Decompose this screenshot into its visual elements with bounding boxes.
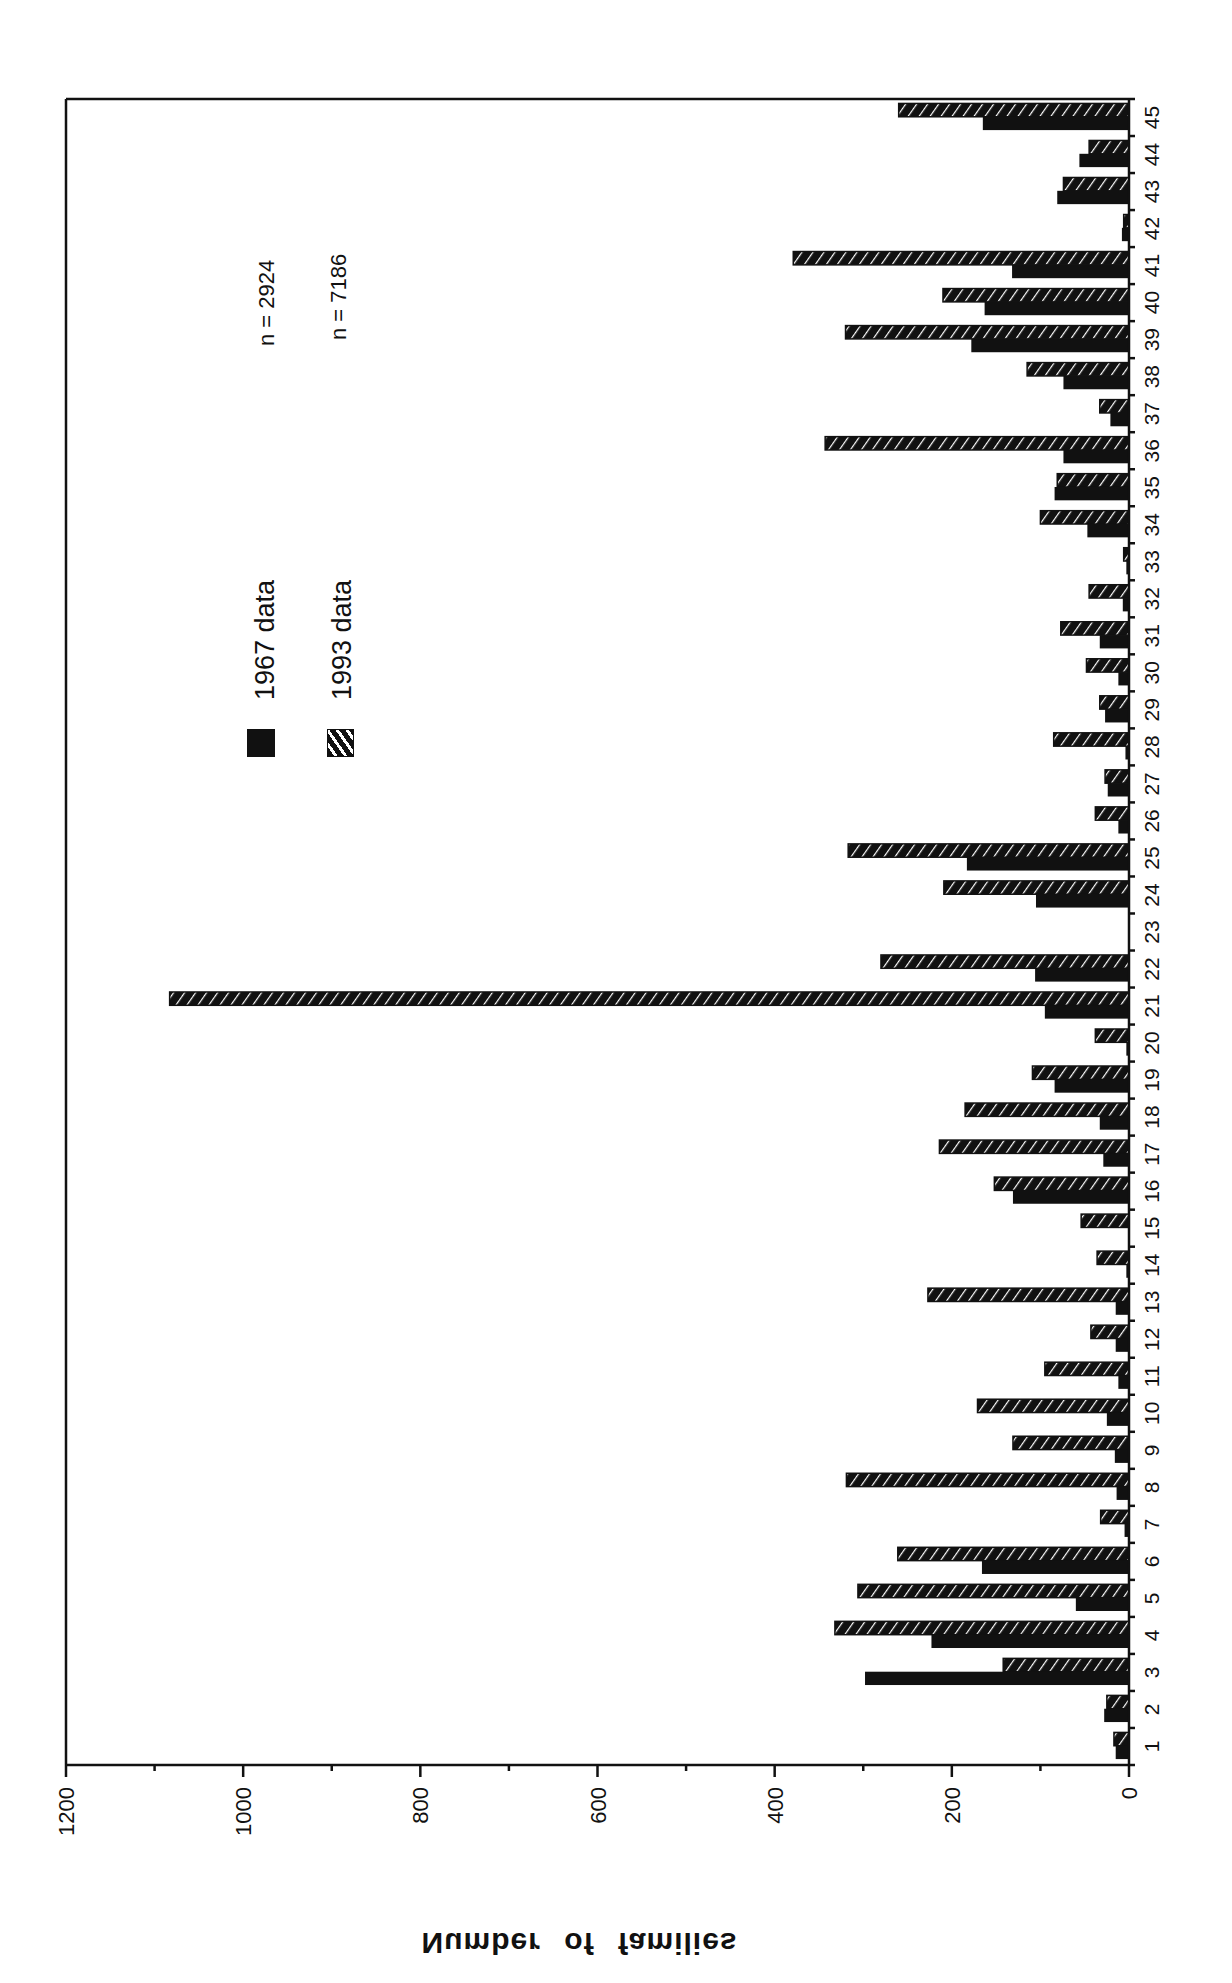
category-label-15: 15 <box>1140 1216 1163 1239</box>
bar-1993-cat-20 <box>1095 1029 1129 1042</box>
legend-swatch-1967-icon <box>247 729 275 757</box>
bar-1967-cat-41 <box>1012 265 1129 278</box>
category-label-33: 33 <box>1140 550 1163 573</box>
y-axis-title: Number of families <box>397 1926 762 1960</box>
bar-1993-cat-27 <box>1105 770 1129 783</box>
category-label-2: 2 <box>1140 1704 1163 1716</box>
bar-1967-cat-30 <box>1118 672 1129 685</box>
category-label-9: 9 <box>1140 1444 1163 1456</box>
value-tick-label-400: 400 <box>763 1787 788 1824</box>
category-label-41: 41 <box>1140 254 1163 277</box>
bar-1967-cat-17 <box>1103 1153 1129 1166</box>
bar-1993-cat-40 <box>943 289 1129 302</box>
category-label-35: 35 <box>1140 476 1163 499</box>
category-label-5: 5 <box>1140 1593 1163 1605</box>
bar-1993-cat-38 <box>1027 363 1129 376</box>
bar-1967-cat-10 <box>1107 1413 1129 1426</box>
bar-1967-cat-31 <box>1100 635 1129 648</box>
bar-1967-cat-8 <box>1117 1487 1129 1500</box>
bar-1967-cat-27 <box>1108 783 1129 796</box>
value-tick-label-0: 0 <box>1117 1787 1142 1799</box>
category-label-19: 19 <box>1140 1068 1163 1091</box>
bar-1993-cat-16 <box>994 1177 1129 1190</box>
bar-1993-cat-12 <box>1091 1325 1129 1338</box>
category-label-45: 45 <box>1140 106 1163 129</box>
bar-1993-cat-45 <box>899 103 1129 116</box>
bar-1993-cat-18 <box>965 1103 1129 1116</box>
category-label-21: 21 <box>1140 994 1163 1017</box>
bar-1967-cat-43 <box>1057 191 1129 204</box>
category-label-6: 6 <box>1140 1556 1163 1568</box>
bar-1967-cat-37 <box>1110 413 1129 426</box>
category-label-18: 18 <box>1140 1105 1163 1128</box>
bar-1967-cat-40 <box>985 302 1129 315</box>
category-label-28: 28 <box>1140 735 1163 758</box>
category-label-38: 38 <box>1140 365 1163 388</box>
bar-1993-cat-10 <box>978 1399 1129 1412</box>
bar-1993-cat-32 <box>1089 585 1129 598</box>
bar-1993-cat-25 <box>848 844 1129 857</box>
bar-1967-cat-44 <box>1079 154 1129 167</box>
category-label-11: 11 <box>1140 1365 1163 1387</box>
bar-1993-cat-8 <box>846 1473 1129 1486</box>
bar-1967-cat-22 <box>1035 968 1129 981</box>
bar-1967-cat-9 <box>1115 1450 1129 1463</box>
category-label-3: 3 <box>1140 1667 1163 1679</box>
category-label-20: 20 <box>1140 1031 1163 1054</box>
bar-1993-cat-35 <box>1057 474 1129 487</box>
bar-1993-cat-21 <box>170 992 1129 1005</box>
bar-1967-cat-34 <box>1087 524 1129 537</box>
bar-1967-cat-4 <box>931 1635 1129 1648</box>
value-tick-label-800: 800 <box>408 1787 433 1824</box>
bar-1993-cat-29 <box>1100 696 1129 709</box>
category-label-24: 24 <box>1140 883 1163 907</box>
n-label-1993: n = 7186 <box>326 254 352 340</box>
category-label-39: 39 <box>1140 328 1163 351</box>
value-tick-label-600: 600 <box>586 1787 611 1824</box>
n-label-1967: n = 2924 <box>254 260 280 346</box>
category-label-34: 34 <box>1140 513 1163 537</box>
value-tick-label-1000: 1000 <box>231 1787 256 1836</box>
bar-1967-cat-25 <box>967 857 1129 870</box>
category-label-8: 8 <box>1140 1481 1163 1493</box>
category-axis: 1234567891011121314151617181920212223242… <box>1129 99 1163 1765</box>
bar-1993-cat-19 <box>1032 1066 1129 1079</box>
bar-1993-cat-13 <box>928 1288 1129 1301</box>
category-label-10: 10 <box>1140 1402 1163 1425</box>
bar-1993-cat-26 <box>1095 807 1129 820</box>
category-label-7: 7 <box>1140 1519 1163 1531</box>
category-label-16: 16 <box>1140 1179 1163 1202</box>
category-label-25: 25 <box>1140 846 1163 869</box>
legend-label-1967: 1967 data <box>250 580 281 700</box>
category-label-43: 43 <box>1140 180 1163 203</box>
bar-1967-cat-5 <box>1076 1598 1129 1611</box>
bar-1967-cat-18 <box>1100 1116 1129 1129</box>
bar-1967-cat-12 <box>1116 1339 1129 1352</box>
bar-1967-cat-3 <box>865 1672 1129 1685</box>
bar-1993-cat-15 <box>1081 1214 1129 1227</box>
legend-swatch-1993-icon <box>327 729 354 757</box>
bar-1967-cat-16 <box>1013 1190 1129 1203</box>
bar-1993-cat-14 <box>1097 1251 1129 1264</box>
bar-1993-cat-7 <box>1101 1510 1129 1523</box>
bar-1993-cat-31 <box>1061 622 1129 635</box>
bar-chart: 020040060080010001200 123456789101112131… <box>0 0 1232 1983</box>
category-label-40: 40 <box>1140 291 1163 314</box>
category-label-29: 29 <box>1140 698 1163 721</box>
category-label-4: 4 <box>1140 1629 1163 1641</box>
legend-label-1993: 1993 data <box>327 580 358 700</box>
bar-1993-cat-30 <box>1086 659 1129 672</box>
bar-1993-cat-9 <box>1013 1436 1129 1449</box>
bar-1967-cat-1 <box>1116 1746 1129 1759</box>
category-label-12: 12 <box>1140 1328 1163 1351</box>
bar-1993-cat-17 <box>939 1140 1129 1153</box>
bar-1967-cat-29 <box>1105 709 1129 722</box>
bar-1967-cat-11 <box>1118 1376 1129 1389</box>
bar-1967-cat-35 <box>1055 487 1129 500</box>
category-label-13: 13 <box>1140 1291 1163 1314</box>
bar-1993-cat-28 <box>1054 733 1129 746</box>
bar-1993-cat-37 <box>1100 400 1129 413</box>
bar-1967-cat-19 <box>1055 1079 1129 1092</box>
bar-1993-cat-41 <box>793 252 1129 265</box>
bar-1993-cat-22 <box>881 955 1129 968</box>
